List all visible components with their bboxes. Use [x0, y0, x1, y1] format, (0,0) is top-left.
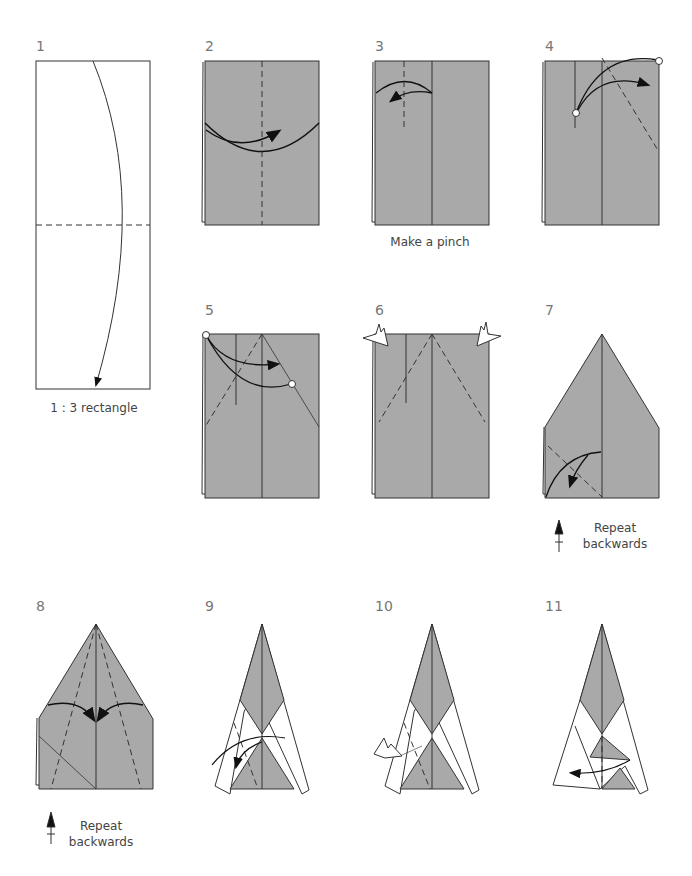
- step-5-diagram: [202, 332, 319, 499]
- step-4-diagram: [542, 58, 663, 226]
- step-3-diagram: [372, 61, 489, 225]
- origami-diagram: [0, 0, 692, 876]
- step-8-diagram: [36, 624, 153, 844]
- step-2-diagram: [202, 61, 319, 225]
- step-11-diagram: [553, 624, 648, 794]
- step-7-diagram: [543, 334, 659, 552]
- step-6-diagram: [363, 322, 501, 498]
- step-9-diagram: [212, 624, 309, 794]
- step-1-diagram: [36, 61, 150, 389]
- step-10-diagram: [374, 624, 479, 794]
